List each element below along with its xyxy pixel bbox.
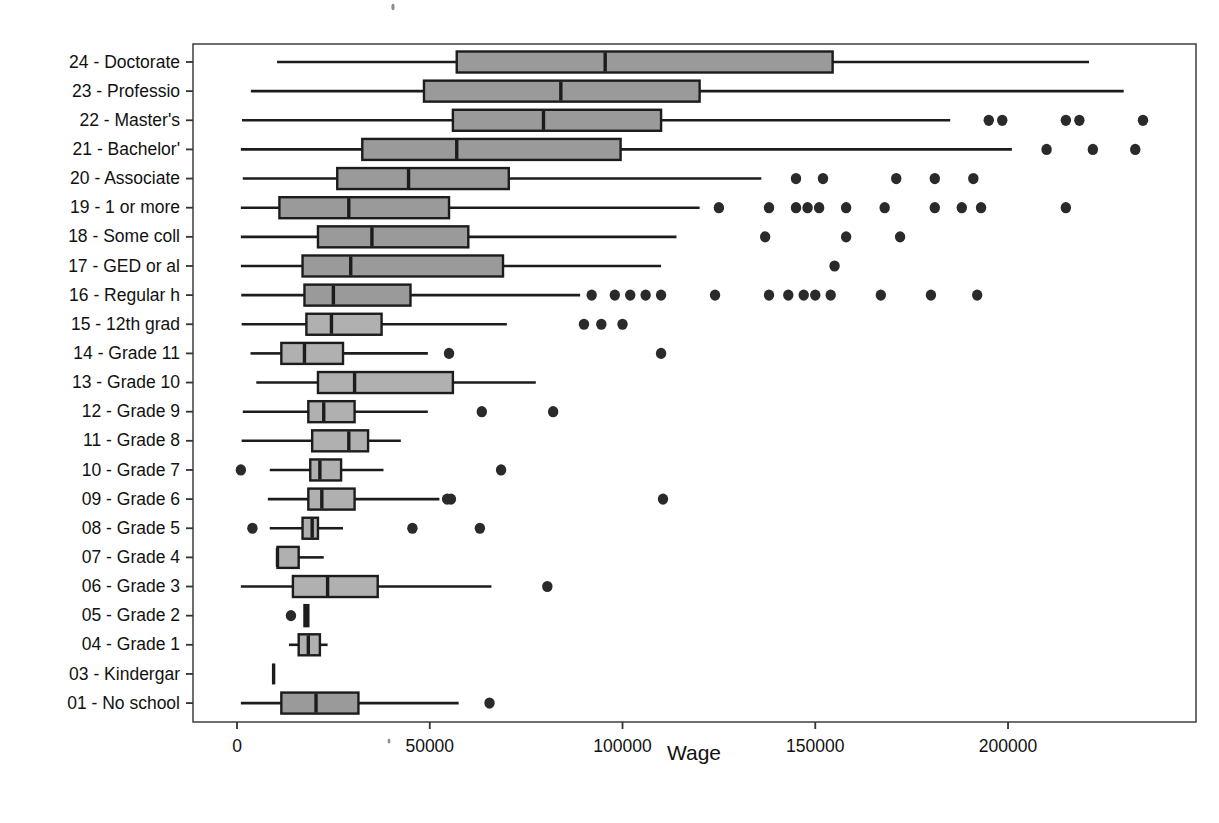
y-tick-label: 05 - Grade 2 xyxy=(82,605,180,625)
box-iqr xyxy=(318,372,453,393)
outlier-point xyxy=(926,290,936,301)
y-tick-label: 22 - Master's xyxy=(79,110,180,130)
outlier-point xyxy=(714,202,724,213)
outlier-point xyxy=(625,290,635,301)
y-tick-label: 01 - No school xyxy=(67,693,180,713)
outlier-point xyxy=(791,202,801,213)
outlier-point xyxy=(1061,115,1071,126)
outlier-point xyxy=(841,231,851,242)
outlier-point xyxy=(997,115,1007,126)
y-tick-label: 21 - Bachelor' xyxy=(73,139,180,159)
y-tick-label: 15 - 12th grad xyxy=(71,314,180,334)
outlier-point xyxy=(968,173,978,184)
outlier-point xyxy=(810,290,820,301)
outlier-point xyxy=(1088,144,1098,155)
outlier-point xyxy=(236,464,246,475)
outlier-point xyxy=(656,348,666,359)
box-iqr xyxy=(362,139,620,160)
box-iqr xyxy=(318,226,468,247)
box-iqr xyxy=(306,314,381,335)
box-iqr xyxy=(337,168,509,189)
y-tick-label: 03 - Kindergar xyxy=(69,664,180,684)
y-tick-label: 18 - Some coll xyxy=(68,226,180,246)
outlier-point xyxy=(610,290,620,301)
outlier-point xyxy=(984,115,994,126)
x-tick-label: 150000 xyxy=(786,736,845,756)
x-tick-label: 0 xyxy=(232,736,242,756)
y-tick-label: 13 - Grade 10 xyxy=(72,372,180,392)
y-tick-label: 17 - GED or al xyxy=(68,256,180,276)
box-iqr xyxy=(303,255,503,276)
box-iqr xyxy=(303,518,318,539)
outlier-point xyxy=(286,610,296,621)
outlier-point xyxy=(826,290,836,301)
outlier-point xyxy=(548,406,558,417)
outlier-point xyxy=(760,231,770,242)
outlier-point xyxy=(1041,144,1051,155)
box-iqr xyxy=(281,343,343,364)
y-tick-label: 06 - Grade 3 xyxy=(82,576,180,596)
y-tick-label: 19 - 1 or more xyxy=(70,197,180,217)
outlier-point xyxy=(407,523,417,534)
box-iqr xyxy=(281,693,358,714)
box-iqr xyxy=(293,576,378,597)
outlier-point xyxy=(1061,202,1071,213)
outlier-point xyxy=(656,290,666,301)
y-tick-label: 14 - Grade 11 xyxy=(73,343,180,363)
outlier-point xyxy=(972,290,982,301)
outlier-point xyxy=(710,290,720,301)
outlier-point xyxy=(791,173,801,184)
outlier-point xyxy=(617,319,627,330)
box-iqr xyxy=(312,430,368,451)
box-iqr xyxy=(304,285,410,306)
box-iqr xyxy=(457,52,833,73)
x-tick-label: 50000 xyxy=(405,736,454,756)
y-tick-label: 23 - Professio xyxy=(72,81,180,101)
outlier-point xyxy=(477,406,487,417)
outlier-point xyxy=(876,290,886,301)
outlier-point xyxy=(891,173,901,184)
outlier-point xyxy=(1130,144,1140,155)
outlier-point xyxy=(829,260,839,271)
outlier-point xyxy=(930,173,940,184)
y-tick-label: 12 - Grade 9 xyxy=(82,401,180,421)
outlier-point xyxy=(1138,115,1148,126)
box-iqr xyxy=(279,197,449,218)
y-tick-label: 09 - Grade 6 xyxy=(82,489,180,509)
y-tick-label: 08 - Grade 5 xyxy=(82,518,180,538)
x-axis-title: Wage xyxy=(667,741,721,764)
y-axis: 24 - Doctorate23 - Professio22 - Master'… xyxy=(67,52,193,713)
outlier-point xyxy=(658,494,668,505)
outlier-point xyxy=(783,290,793,301)
outlier-point xyxy=(802,202,812,213)
outlier-point xyxy=(579,319,589,330)
box-iqr xyxy=(453,110,661,131)
outlier-point xyxy=(799,290,809,301)
y-tick-label: 07 - Grade 4 xyxy=(82,547,181,567)
outlier-point xyxy=(895,231,905,242)
y-tick-label: 16 - Regular h xyxy=(69,285,180,305)
outlier-point xyxy=(764,290,774,301)
box-iqr xyxy=(308,489,354,510)
outlier-point xyxy=(446,494,456,505)
box-iqr xyxy=(277,547,298,568)
outlier-point xyxy=(976,202,986,213)
outlier-point xyxy=(496,464,506,475)
x-tick-label: 100000 xyxy=(593,736,652,756)
y-tick-label: 20 - Associate xyxy=(70,168,180,188)
outlier-point xyxy=(841,202,851,213)
outlier-point xyxy=(957,202,967,213)
outlier-point xyxy=(814,202,824,213)
outlier-point xyxy=(930,202,940,213)
outlier-point xyxy=(596,319,606,330)
outlier-point xyxy=(879,202,889,213)
outlier-point xyxy=(542,581,552,592)
outlier-point xyxy=(444,348,454,359)
outlier-point xyxy=(475,523,485,534)
y-tick-label: 24 - Doctorate xyxy=(69,52,180,72)
box-iqr xyxy=(308,401,354,422)
outlier-point xyxy=(484,697,494,708)
box-iqr xyxy=(310,459,341,480)
outlier-point xyxy=(247,523,257,534)
outlier-point xyxy=(764,202,774,213)
